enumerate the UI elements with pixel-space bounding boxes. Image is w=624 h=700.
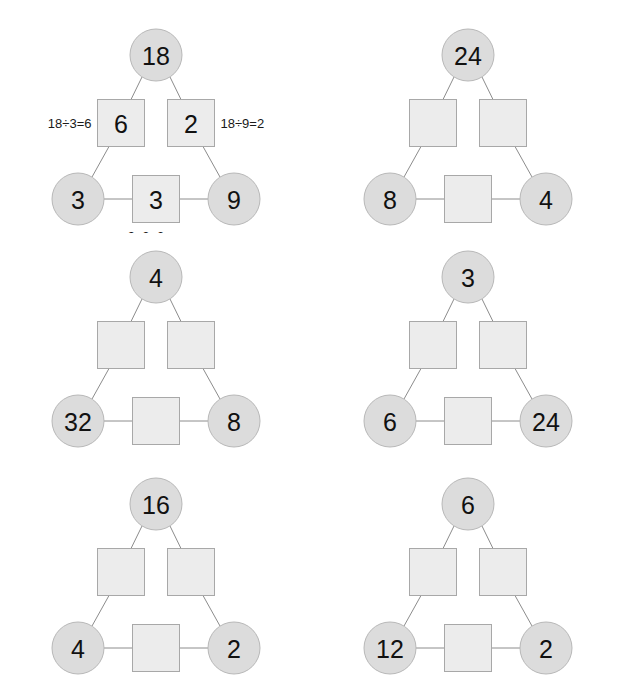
puzzle-diagram: 3624 xyxy=(312,222,624,455)
right-square[interactable] xyxy=(480,322,527,369)
right-square-value: 2 xyxy=(184,110,198,138)
puzzle-diagram: 1642 xyxy=(0,449,312,682)
edge-top-to-right-square xyxy=(482,77,493,100)
left-square[interactable] xyxy=(410,549,457,596)
puzzle-cell: 6122 xyxy=(312,449,624,682)
left-square[interactable] xyxy=(410,322,457,369)
right-square[interactable] xyxy=(480,100,527,147)
bottom-left-circle-label: 32 xyxy=(64,408,92,436)
bottom-left-circle-label: 4 xyxy=(71,635,85,663)
puzzle-diagram: 4328 xyxy=(0,222,312,455)
edge-right-square-to-bottom-right xyxy=(515,369,532,400)
bottom-right-circle-label: 24 xyxy=(532,408,560,436)
bottom-square[interactable] xyxy=(133,398,180,445)
edge-top-to-right-square xyxy=(170,526,181,549)
right-square[interactable] xyxy=(168,322,215,369)
edge-left-square-to-bottom-left xyxy=(404,369,421,400)
edge-left-square-to-bottom-left xyxy=(92,596,109,627)
edge-left-square-to-bottom-left xyxy=(404,596,421,627)
left-square-value: 6 xyxy=(114,110,128,138)
top-circle-label: 16 xyxy=(142,491,170,519)
puzzle-cell: 2484 xyxy=(312,0,624,233)
edge-top-to-left-square xyxy=(443,526,454,549)
edge-top-to-left-square xyxy=(443,299,454,322)
puzzle-cell: 4328 xyxy=(0,222,312,455)
bottom-square[interactable] xyxy=(133,625,180,672)
edge-right-square-to-bottom-right xyxy=(515,147,532,178)
hint-right-equation: 18÷9=2 xyxy=(221,116,265,131)
edge-right-square-to-bottom-right xyxy=(203,596,220,627)
bottom-right-circle-label: 4 xyxy=(539,186,553,214)
edge-left-square-to-bottom-left xyxy=(404,147,421,178)
edge-right-square-to-bottom-right xyxy=(203,369,220,400)
bottom-square-value: 3 xyxy=(149,186,163,214)
puzzle-cell: 623183918÷3=618÷9=29÷3=3 xyxy=(0,0,312,233)
top-circle-label: 4 xyxy=(149,264,163,292)
bottom-right-circle-label: 9 xyxy=(227,186,241,214)
edge-left-square-to-bottom-left xyxy=(92,369,109,400)
edge-top-to-right-square xyxy=(170,77,181,100)
puzzle-diagram: 623183918÷3=618÷9=29÷3=3 xyxy=(0,0,312,233)
bottom-left-circle-label: 6 xyxy=(383,408,397,436)
edge-top-to-right-square xyxy=(482,299,493,322)
edge-top-to-left-square xyxy=(131,299,142,322)
bottom-right-circle-label: 2 xyxy=(539,635,553,663)
top-circle-label: 18 xyxy=(142,42,170,70)
bottom-right-circle-label: 8 xyxy=(227,408,241,436)
edge-top-to-left-square xyxy=(443,77,454,100)
top-circle-label: 24 xyxy=(454,42,482,70)
bottom-right-circle-label: 2 xyxy=(227,635,241,663)
edge-top-to-left-square xyxy=(131,526,142,549)
top-circle-label: 6 xyxy=(461,491,475,519)
right-square[interactable] xyxy=(480,549,527,596)
hint-left-equation: 18÷3=6 xyxy=(48,116,92,131)
division-triangle-worksheet: 623183918÷3=618÷9=29÷3=32484432836241642… xyxy=(0,0,624,700)
bottom-left-circle-label: 12 xyxy=(376,635,404,663)
left-square[interactable] xyxy=(410,100,457,147)
left-square[interactable] xyxy=(98,549,145,596)
edge-top-to-left-square xyxy=(131,77,142,100)
puzzle-cell: 1642 xyxy=(0,449,312,682)
top-circle-label: 3 xyxy=(461,264,475,292)
bottom-square[interactable] xyxy=(445,176,492,223)
puzzle-diagram: 6122 xyxy=(312,449,624,682)
bottom-left-circle-label: 8 xyxy=(383,186,397,214)
edge-left-square-to-bottom-left xyxy=(92,147,109,178)
edge-top-to-right-square xyxy=(170,299,181,322)
edge-right-square-to-bottom-right xyxy=(203,147,220,178)
puzzle-cell: 3624 xyxy=(312,222,624,455)
puzzle-diagram: 2484 xyxy=(312,0,624,233)
right-square[interactable] xyxy=(168,549,215,596)
bottom-square[interactable] xyxy=(445,625,492,672)
edge-top-to-right-square xyxy=(482,526,493,549)
left-square[interactable] xyxy=(98,322,145,369)
bottom-left-circle-label: 3 xyxy=(71,186,85,214)
edge-right-square-to-bottom-right xyxy=(515,596,532,627)
bottom-square[interactable] xyxy=(445,398,492,445)
